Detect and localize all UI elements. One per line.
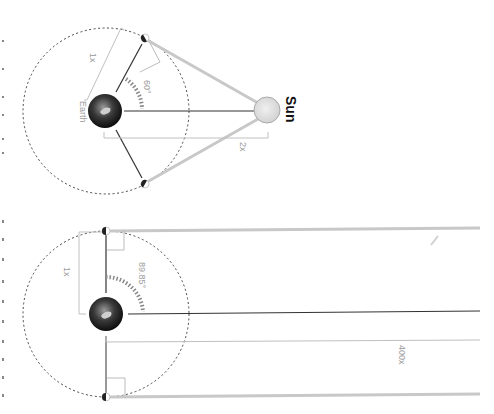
label-1x: 1x xyxy=(62,267,72,277)
sunlight-line-top xyxy=(147,40,258,103)
label-earth: Earth xyxy=(78,101,88,123)
sunlight-line-bottom xyxy=(110,394,480,397)
diagram-far-sun: 400x 1x 89.85° xyxy=(23,227,480,401)
stray-mark xyxy=(431,236,438,245)
label-2x: 2x xyxy=(238,142,248,152)
diagram-near-sun: 1x 2x 60° Earth Sun xyxy=(23,28,299,194)
sun-icon xyxy=(254,97,280,123)
distance-bracket-400x xyxy=(106,336,480,342)
sunlight-line-top xyxy=(110,228,480,231)
moon-phase-diagram: 1x 2x 60° Earth Sun xyxy=(0,0,494,414)
edge-text-fragments xyxy=(2,40,4,397)
earth-sun-line xyxy=(128,311,480,314)
right-angle-marker-top xyxy=(107,231,124,250)
label-sun: Sun xyxy=(283,96,299,122)
label-400x: 400x xyxy=(397,345,407,365)
label-angle-89-85: 89.85° xyxy=(137,262,147,289)
right-angle-marker-bottom xyxy=(107,378,125,397)
label-1x: 1x xyxy=(88,53,98,63)
sight-line-top xyxy=(116,44,142,92)
distance-bracket-2x xyxy=(104,132,268,138)
angle-arc xyxy=(126,79,142,109)
moon-icon-top xyxy=(102,227,110,235)
label-angle-60: 60° xyxy=(142,80,152,94)
sight-line-bottom xyxy=(116,130,142,178)
moon-icon-bottom xyxy=(102,393,110,401)
